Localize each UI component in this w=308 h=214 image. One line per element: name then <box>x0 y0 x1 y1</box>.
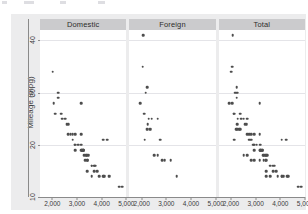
data-point <box>265 170 268 173</box>
x-axis-panel-ticks: 2,0003,0004,0005,000 <box>40 197 126 211</box>
panel-header-label: Domestic <box>40 19 126 30</box>
data-point <box>235 86 238 89</box>
data-point <box>255 144 258 147</box>
data-point <box>253 159 256 162</box>
data-point <box>266 154 269 157</box>
data-point <box>121 185 124 188</box>
data-point <box>102 138 105 141</box>
toolbar-remnant-mark <box>2 1 7 4</box>
data-point <box>150 117 153 120</box>
data-point <box>259 133 262 136</box>
y-tick-label: 10 <box>29 190 36 204</box>
data-point <box>146 86 149 89</box>
screenshot-root: Mileage (mpg) 10203040 DomesticForeignTo… <box>0 0 308 214</box>
toolbar-remnant-mark <box>98 1 105 4</box>
data-point <box>261 149 264 152</box>
y-tick-label: 40 <box>29 33 36 47</box>
y-tick-label: 20 <box>29 138 36 152</box>
x-tick-label: 4,000 <box>272 200 288 207</box>
data-point <box>72 138 75 141</box>
data-point <box>64 117 67 120</box>
data-point <box>237 117 240 120</box>
data-point <box>156 154 159 157</box>
data-point <box>246 117 249 120</box>
data-point <box>83 149 86 152</box>
data-point <box>142 34 145 37</box>
data-point <box>259 102 262 105</box>
x-tick-label: 2,000 <box>44 200 60 207</box>
gridline <box>219 93 305 94</box>
x-tick-label: 3,000 <box>158 200 174 207</box>
data-point <box>239 128 242 131</box>
data-point <box>253 133 256 136</box>
data-point <box>102 175 105 178</box>
data-point <box>265 175 268 178</box>
data-point <box>109 175 112 178</box>
data-point <box>93 170 96 173</box>
panel-plot-area <box>219 30 305 197</box>
facet-panel-domestic: Domestic <box>40 19 126 197</box>
data-point <box>72 133 75 136</box>
data-point <box>74 149 77 152</box>
stata-graph-region: Mileage (mpg) 10203040 DomesticForeignTo… <box>11 14 306 210</box>
toolbar-remnant-mark <box>24 1 34 4</box>
y-tick-label: 30 <box>29 86 36 100</box>
data-point <box>250 138 253 141</box>
data-point <box>80 144 83 147</box>
gridline <box>40 40 126 41</box>
data-point <box>300 185 303 188</box>
data-point <box>153 154 156 157</box>
data-point <box>57 97 60 100</box>
gridline <box>129 145 215 146</box>
data-point <box>243 117 246 120</box>
x-axis-panel-ticks: 2,0003,0004,0005,000 <box>129 197 215 211</box>
data-point <box>287 175 290 178</box>
data-point <box>156 117 159 120</box>
data-point <box>80 133 83 136</box>
x-tick-label: 2,000 <box>134 200 150 207</box>
data-point <box>52 102 55 105</box>
x-tick-label: 3,000 <box>248 200 264 207</box>
data-point <box>175 175 178 178</box>
data-point <box>142 65 145 68</box>
data-point <box>265 159 268 162</box>
data-point <box>60 112 63 115</box>
panel-plot-area <box>129 30 215 197</box>
gridline <box>40 93 126 94</box>
data-point <box>236 128 239 131</box>
data-point <box>259 144 262 147</box>
x-axis-tick-labels: 2,0003,0004,0005,0002,0003,0004,0005,000… <box>40 197 305 211</box>
data-point <box>277 175 280 178</box>
data-point <box>285 138 288 141</box>
data-point <box>269 175 272 178</box>
y-axis-line <box>28 19 29 197</box>
data-point <box>146 123 149 126</box>
x-tick-label: 4,000 <box>183 200 199 207</box>
facet-panels: DomesticForeignTotal <box>40 19 305 197</box>
gridline <box>129 40 215 41</box>
data-point <box>139 102 142 105</box>
data-point <box>275 170 278 173</box>
data-point <box>77 144 80 147</box>
gridline <box>219 145 305 146</box>
data-point <box>231 102 234 105</box>
data-point <box>84 154 87 157</box>
panel-header-label: Foreign <box>129 19 215 30</box>
data-point <box>87 154 90 157</box>
data-point <box>281 138 284 141</box>
data-point <box>231 34 234 37</box>
data-point <box>149 128 152 131</box>
data-point <box>91 164 94 167</box>
data-point <box>273 164 276 167</box>
data-point <box>159 138 162 141</box>
data-point <box>259 159 262 162</box>
data-point <box>143 112 146 115</box>
data-point <box>233 112 236 115</box>
data-point <box>67 123 70 126</box>
x-tick-label: 2,000 <box>223 200 239 207</box>
data-point <box>282 175 285 178</box>
data-point <box>243 154 246 157</box>
data-point <box>54 112 57 115</box>
data-point <box>80 102 83 105</box>
data-point <box>272 170 275 173</box>
